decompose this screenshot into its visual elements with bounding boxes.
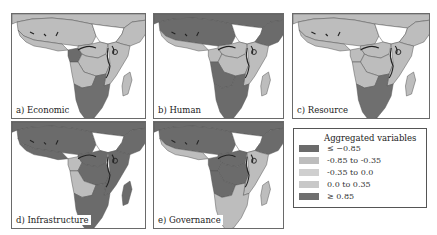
- panel-label: a) Economic: [16, 105, 71, 115]
- panel-label: c) Resource: [297, 105, 350, 115]
- africa-map: [12, 14, 146, 119]
- africa-map: [154, 122, 284, 229]
- map-panel-governance: e) Governance: [153, 121, 284, 229]
- legend-item: -0.35 to 0.0: [299, 168, 373, 177]
- africa-map: [12, 122, 146, 229]
- map-panel-economic: a) Economic: [11, 13, 146, 119]
- legend-label: 0.0 to 0.35: [327, 180, 371, 189]
- africa-map: [154, 14, 284, 119]
- legend-swatch: [299, 181, 319, 188]
- legend-title: Aggregated variables: [324, 133, 416, 143]
- legend-item: ≤ −0.85: [299, 144, 361, 153]
- legend-swatch: [299, 193, 319, 200]
- legend-label: -0.85 to -0.35: [327, 156, 381, 165]
- map-panel-infrastructure: d) Infrastructure: [11, 121, 146, 229]
- panel-label: b) Human: [158, 105, 203, 115]
- legend-label: -0.35 to 0.0: [327, 168, 373, 177]
- map-panel-resource: c) Resource: [292, 13, 430, 119]
- legend: Aggregated variables ≤ −0.85 -0.85 to -0…: [293, 128, 427, 208]
- map-panel-human: b) Human: [153, 13, 284, 119]
- legend-item: -0.85 to -0.35: [299, 156, 381, 165]
- panel-label: e) Governance: [158, 215, 223, 225]
- panel-label: d) Infrastructure: [16, 215, 91, 225]
- legend-label: ≥ 0.85: [327, 192, 354, 201]
- legend-swatch: [299, 145, 319, 152]
- legend-item: 0.0 to 0.35: [299, 180, 371, 189]
- legend-label: ≤ −0.85: [327, 144, 361, 153]
- legend-item: ≥ 0.85: [299, 192, 354, 201]
- africa-map: [293, 14, 430, 119]
- legend-swatch: [299, 169, 319, 176]
- legend-swatch: [299, 157, 319, 164]
